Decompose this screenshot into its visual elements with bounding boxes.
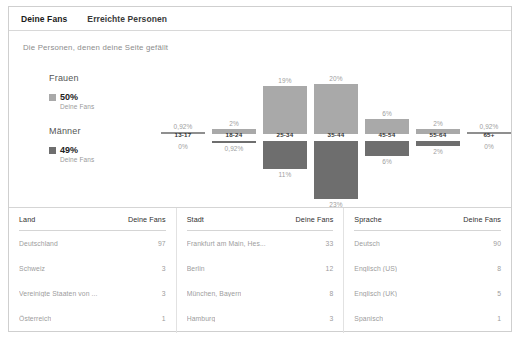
age-tick-label-55-64: 55-64 <box>414 131 462 138</box>
female-bar-label-65+: 0,92% <box>480 123 499 130</box>
cell-value: 12 <box>326 265 334 272</box>
age-column-65+: 0,92%65+0% <box>465 67 513 207</box>
male-bar-group-13-17: 0% <box>159 141 207 150</box>
cell-value: 33 <box>326 240 334 247</box>
column-header-value[interactable]: Deine Fans <box>296 215 334 224</box>
table-row[interactable]: Hamburg3 <box>187 306 334 331</box>
cell-name: Österreich <box>19 315 51 322</box>
demographics-tables: LandDeine FansDeutschland97Schweiz3Verei… <box>9 207 511 333</box>
table-row[interactable]: Deutschland97 <box>19 231 166 256</box>
table-stadt: StadtDeine FansFrankfurt am Main, Hes...… <box>176 208 344 333</box>
column-header-name[interactable]: Stadt <box>187 215 204 224</box>
cell-name: München, Bayern <box>187 290 242 297</box>
age-column-45-54: 6%45-546% <box>363 67 411 207</box>
male-bar-group-65+: 0% <box>465 141 513 150</box>
male-bar-group-25-34: 11% <box>261 141 309 178</box>
table-row[interactable]: Berlin12 <box>187 256 334 281</box>
male-bar-55-64[interactable] <box>416 141 460 146</box>
legend-female-percent: 50% <box>60 92 78 102</box>
page-root: Deine Fans Erreichte Personen Die Person… <box>0 0 522 338</box>
age-gender-chart: 0,92%13-170%2%18-240,92%19%25-3411%20%35… <box>159 67 519 207</box>
legend-female-sublabel: Deine Fans <box>60 103 159 110</box>
table-row[interactable]: Frankfurt am Main, Hes...33 <box>187 231 334 256</box>
male-bar-group-55-64: 2% <box>414 141 462 155</box>
table-header-row: LandDeine Fans <box>19 208 166 231</box>
column-header-value[interactable]: Deine Fans <box>128 215 166 224</box>
male-bar-35-44[interactable] <box>314 141 358 199</box>
cell-value: 8 <box>497 265 501 272</box>
male-bar-45-54[interactable] <box>365 141 409 156</box>
cell-name: Schweiz <box>19 265 45 272</box>
column-header-name[interactable]: Sprache <box>354 215 381 224</box>
male-bar-label-13-17: 0% <box>178 143 188 150</box>
legend-male-percent: 49% <box>60 145 78 155</box>
female-bar-35-44[interactable] <box>314 84 358 134</box>
cell-name: Spanisch <box>354 315 383 322</box>
cell-value: 3 <box>329 315 333 322</box>
table-row[interactable]: Englisch (US)8 <box>354 256 501 281</box>
female-bar-25-34[interactable] <box>263 86 307 134</box>
table-row[interactable]: Spanisch1 <box>354 306 501 331</box>
age-column-55-64: 2%55-642% <box>414 67 462 207</box>
table-row[interactable]: Deutsch90 <box>354 231 501 256</box>
cell-name: Hamburg <box>187 315 216 322</box>
tab-deine-fans[interactable]: Deine Fans <box>21 8 67 30</box>
legend-female-title: Frauen <box>49 73 159 83</box>
male-bar-label-45-54: 6% <box>382 158 392 165</box>
legend-female-row: 50% <box>49 92 159 102</box>
male-bar-25-34[interactable] <box>263 141 307 169</box>
female-bar-label-13-17: 0,92% <box>174 123 193 130</box>
cell-name: Vereinigte Staaten von ... <box>19 290 98 297</box>
table-row[interactable]: Österreich1 <box>19 306 166 331</box>
male-bar-group-35-44: 23% <box>312 141 360 208</box>
cell-value: 1 <box>497 315 501 322</box>
female-color-swatch-icon <box>49 94 56 101</box>
male-bar-group-45-54: 6% <box>363 141 411 165</box>
male-bar-label-65+: 0% <box>484 143 494 150</box>
male-color-swatch-icon <box>49 147 56 154</box>
female-bar-label-18-24: 2% <box>229 120 239 127</box>
cell-name: Frankfurt am Main, Hes... <box>187 240 266 247</box>
tab-bar: Deine Fans Erreichte Personen <box>9 7 511 31</box>
table-row[interactable]: Schweiz3 <box>19 256 166 281</box>
legend-male-title: Männer <box>49 126 159 136</box>
female-bar-group-25-34: 19% <box>261 77 309 134</box>
male-bar-label-55-64: 2% <box>433 148 443 155</box>
table-row[interactable]: Vereinigte Staaten von ...3 <box>19 281 166 306</box>
cell-name: Englisch (US) <box>354 265 397 272</box>
age-column-13-17: 0,92%13-170% <box>159 67 207 207</box>
male-bar-18-24[interactable] <box>212 141 256 143</box>
cell-value: 8 <box>329 290 333 297</box>
age-column-18-24: 2%18-240,92% <box>210 67 258 207</box>
column-header-name[interactable]: Land <box>19 215 35 224</box>
age-column-25-34: 19%25-3411% <box>261 67 309 207</box>
table-land: LandDeine FansDeutschland97Schweiz3Verei… <box>9 208 176 333</box>
table-sprache: SpracheDeine FansDeutsch90Englisch (US)8… <box>343 208 511 333</box>
table-row[interactable]: Englisch (UK)5 <box>354 281 501 306</box>
cell-value: 1 <box>162 315 166 322</box>
table-header-row: SpracheDeine Fans <box>354 208 501 231</box>
cell-value: 97 <box>158 240 166 247</box>
gender-legend: Frauen 50% Deine Fans Männer 49% Deine F… <box>49 73 159 179</box>
male-bar-group-18-24: 0,92% <box>210 141 258 152</box>
female-bar-label-35-44: 20% <box>329 75 342 82</box>
male-bar-label-18-24: 0,92% <box>225 145 244 152</box>
legend-male-row: 49% <box>49 145 159 155</box>
table-row[interactable]: München, Bayern8 <box>187 281 334 306</box>
age-tick-label-65+: 65+ <box>465 131 513 138</box>
age-tick-label-18-24: 18-24 <box>210 131 258 138</box>
female-bar-label-55-64: 2% <box>433 120 443 127</box>
cell-value: 3 <box>162 290 166 297</box>
column-header-value[interactable]: Deine Fans <box>463 215 501 224</box>
insights-card: Deine Fans Erreichte Personen Die Person… <box>8 6 512 332</box>
table-header-row: StadtDeine Fans <box>187 208 334 231</box>
cell-name: Deutsch <box>354 240 380 247</box>
age-tick-label-25-34: 25-34 <box>261 131 309 138</box>
cell-name: Berlin <box>187 265 205 272</box>
legend-female: Frauen 50% Deine Fans <box>49 73 159 110</box>
male-bar-label-25-34: 11% <box>279 171 292 178</box>
cell-name: Deutschland <box>19 240 58 247</box>
cell-value: 5 <box>497 290 501 297</box>
legend-male-sublabel: Deine Fans <box>60 156 159 163</box>
tab-erreichte-personen[interactable]: Erreichte Personen <box>87 8 167 30</box>
